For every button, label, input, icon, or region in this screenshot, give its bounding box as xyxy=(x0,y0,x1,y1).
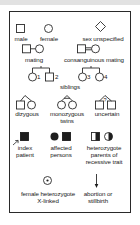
sibling-number-3: 3 xyxy=(87,73,92,80)
label-male: male xyxy=(10,35,32,42)
label-female-heterozygote-1: female heterozygote xyxy=(16,190,80,197)
label-affected-persons-1: affected xyxy=(46,144,76,151)
consanguineous-mating-icon xyxy=(77,44,103,55)
abortion-stillbirth-icon xyxy=(94,174,100,190)
sibling-number-4: 4 xyxy=(104,73,109,80)
label-abortion-1: abortion or xyxy=(80,190,116,197)
label-sex-unspecified: sex unspecified xyxy=(78,35,128,42)
label-heterozygote-2: parents of xyxy=(82,151,126,158)
label-siblings: siblings xyxy=(50,83,90,90)
heterozygote-parents-icon xyxy=(91,132,115,142)
label-female-heterozygote-2: X-linked xyxy=(32,197,64,204)
siblings-left-icon xyxy=(28,66,58,82)
label-mating: mating xyxy=(18,56,50,63)
label-abortion-2: stillbirth xyxy=(80,197,116,204)
label-uncertain: uncertain xyxy=(90,110,124,117)
female-heterozygote-x-linked-icon xyxy=(43,176,53,186)
label-monozygous: monozygous xyxy=(44,110,90,117)
top-band xyxy=(0,0,140,5)
uncertain-question-mark: ? xyxy=(102,97,108,104)
label-heterozygote-1: heterozygote xyxy=(82,144,126,151)
label-dizygous: dizygous xyxy=(10,110,44,117)
label-female: female xyxy=(34,35,64,42)
sibling-number-2: 2 xyxy=(55,73,60,80)
label-twins: twins xyxy=(54,117,80,124)
sex-unspecified-diamond-icon xyxy=(95,21,107,33)
affected-persons-icon xyxy=(50,132,72,142)
label-consanguineous-mating: consanguinous mating xyxy=(60,56,128,63)
female-circle-icon xyxy=(44,24,54,34)
label-index-patient-2: patient xyxy=(12,151,38,158)
label-affected-persons-2: persons xyxy=(46,151,76,158)
mating-icon xyxy=(22,44,46,55)
label-index-patient-1: index xyxy=(12,144,38,151)
label-heterozygote-3: recessive trait xyxy=(80,158,128,165)
male-square-icon xyxy=(16,24,26,34)
sibling-number-1: 1 xyxy=(37,73,42,80)
